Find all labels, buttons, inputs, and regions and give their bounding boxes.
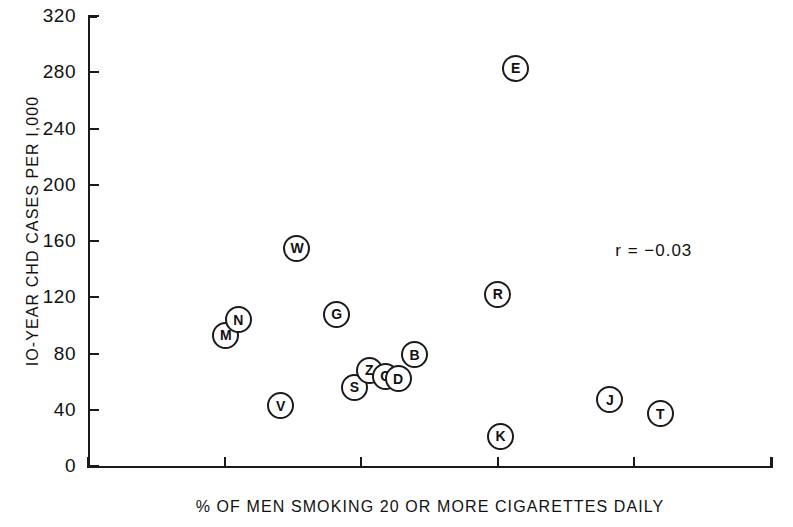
y-axis-tick: 320 (88, 15, 99, 17)
data-point-r: R (484, 281, 511, 308)
data-point-k: K (487, 423, 514, 450)
y-axis-tick: 240 (88, 128, 99, 130)
data-point-w: W (283, 235, 310, 262)
x-axis-tick: 40 (633, 457, 635, 468)
y-axis-tick-label: 160 (43, 230, 76, 252)
data-point-g: G (323, 301, 350, 328)
data-point-e: E (502, 55, 529, 82)
x-axis-line (88, 466, 773, 468)
y-axis-tick-label: 0 (65, 455, 76, 477)
x-axis-title: % OF MEN SMOKING 20 OR MORE CIGARETTES D… (88, 498, 772, 516)
correlation-annotation: r = −0.03 (615, 241, 692, 261)
plot-area: 04080120160200240280320 01020304050 MNWV… (88, 16, 772, 467)
x-axis-tick: 10 (224, 457, 226, 468)
y-axis-tick-label: 280 (43, 61, 76, 83)
y-axis-tick-label: 40 (54, 399, 76, 421)
x-axis-tick: 0 (87, 457, 89, 468)
y-axis-tick: 200 (88, 184, 99, 186)
data-point-b: B (401, 341, 428, 368)
y-axis-tick-label: 120 (43, 286, 76, 308)
y-axis-tick-label: 80 (54, 343, 76, 365)
scatter-plot-figure: 04080120160200240280320 01020304050 MNWV… (0, 0, 793, 527)
y-axis-tick: 0 (88, 465, 99, 467)
data-point-n: N (225, 306, 252, 333)
y-axis-tick: 80 (88, 353, 99, 355)
x-axis-tick: 20 (360, 457, 362, 468)
data-point-d: D (385, 365, 412, 392)
y-axis-tick-label: 320 (43, 5, 76, 27)
y-axis-tick: 160 (88, 240, 99, 242)
y-axis-tick-label: 200 (43, 174, 76, 196)
x-axis-tick: 30 (497, 457, 499, 468)
y-axis-line (88, 16, 90, 468)
data-point-v: V (267, 392, 294, 419)
data-point-t: T (647, 400, 674, 427)
y-axis-tick-label: 240 (43, 118, 76, 140)
x-axis-tick: 50 (770, 457, 772, 468)
y-axis-title: IO-YEAR CHD CASES PER I,000 (24, 16, 42, 446)
y-axis-tick: 280 (88, 71, 99, 73)
data-point-j: J (596, 386, 623, 413)
y-axis-tick: 40 (88, 409, 99, 411)
y-axis-tick: 120 (88, 296, 99, 298)
